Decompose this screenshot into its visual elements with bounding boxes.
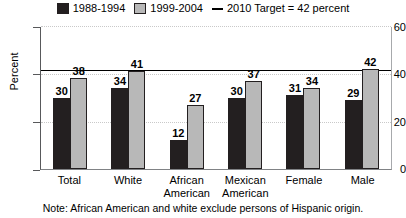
bar-mexican-american-1999-2004[interactable] (245, 81, 262, 169)
bar-wrap: 29 (345, 27, 362, 169)
legend-item-1999-2004: 1999-2004 (134, 3, 203, 14)
bar-wrap: 34 (111, 27, 128, 169)
legend-dash-icon (212, 8, 223, 10)
chart-legend: 1988-1994 1999-2004 2010 Target = 42 per… (0, 1, 406, 16)
legend-swatch-light-icon (134, 3, 146, 14)
bar-value-label: 27 (181, 93, 210, 104)
bar-wrap: 41 (128, 27, 145, 169)
bar-groups: 303834411227303731342942 (41, 27, 391, 169)
y-tick-mark-60 (33, 27, 40, 28)
bar-value-label: 37 (239, 69, 268, 80)
bar-wrap: 30 (228, 27, 245, 169)
y-tick-mark-0 (33, 170, 40, 171)
bar-group: 1227 (170, 27, 204, 169)
bar-wrap: 31 (286, 27, 303, 169)
bar-total-1988-1994[interactable] (53, 98, 70, 170)
x-axis-label-female: Female (275, 174, 333, 200)
bar-value-label: 41 (122, 59, 151, 70)
legend-label-1999-2004: 1999-2004 (150, 3, 203, 14)
y-tick-mark-40 (33, 74, 40, 75)
bar-wrap: 42 (362, 27, 379, 169)
bar-wrap: 30 (53, 27, 70, 169)
bar-group: 3037 (228, 27, 262, 169)
plot-area: 303834411227303731342942 (40, 27, 392, 170)
bar-total-1999-2004[interactable] (70, 78, 87, 169)
bar-female-1988-1994[interactable] (286, 95, 303, 169)
bar-african-american-1988-1994[interactable] (170, 140, 187, 169)
bar-white-1988-1994[interactable] (111, 88, 128, 169)
bar-wrap: 38 (70, 27, 87, 169)
legend-label-target: 2010 Target = 42 percent (227, 3, 349, 14)
bar-male-1999-2004[interactable] (362, 69, 379, 169)
x-axis-label-white: White (99, 174, 157, 200)
bar-white-1999-2004[interactable] (128, 71, 145, 169)
bar-group: 3134 (286, 27, 320, 169)
bar-group: 2942 (345, 27, 379, 169)
bar-male-1988-1994[interactable] (345, 100, 362, 169)
bar-group: 3441 (111, 27, 145, 169)
y-tick-mark-20 (33, 122, 40, 123)
bar-group: 3038 (53, 27, 87, 169)
legend-swatch-dark-icon (57, 3, 69, 14)
bar-wrap: 27 (187, 27, 204, 169)
bar-female-1999-2004[interactable] (303, 88, 320, 169)
bar-wrap: 34 (303, 27, 320, 169)
chart-note: Note: African American and white exclude… (0, 202, 406, 214)
bar-value-label: 42 (356, 57, 385, 68)
bar-wrap: 37 (245, 27, 262, 169)
bar-value-label: 38 (64, 66, 93, 77)
bar-mexican-american-1988-1994[interactable] (228, 98, 245, 170)
bar-value-label: 34 (297, 76, 326, 87)
legend-item-target-line: 2010 Target = 42 percent (212, 3, 349, 14)
legend-label-1988-1994: 1988-1994 (73, 3, 126, 14)
y-axis-label: Percent (9, 37, 20, 107)
x-axis-label-total: Total (40, 174, 98, 200)
x-axis-label-male: Male (334, 174, 392, 200)
legend-item-1988-1994: 1988-1994 (57, 3, 126, 14)
x-axis-label-african-american: AfricanAmerican (158, 174, 216, 200)
bar-chart-figure: 1988-1994 1999-2004 2010 Target = 42 per… (0, 0, 406, 218)
bar-african-american-1999-2004[interactable] (187, 105, 204, 169)
x-axis-labels: TotalWhiteAfricanAmericanMexicanAmerican… (40, 174, 392, 200)
x-axis-label-mexican-american: MexicanAmerican (216, 174, 274, 200)
